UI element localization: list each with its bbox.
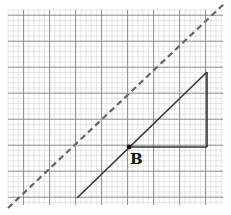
- point-b-label: B: [130, 150, 143, 168]
- grid-major-lines: [8, 10, 223, 205]
- grid-minor-lines: [8, 10, 223, 205]
- graph-paper-figure: B: [0, 0, 231, 215]
- point-b-marker: [127, 145, 132, 150]
- diagram-canvas: B: [0, 0, 231, 215]
